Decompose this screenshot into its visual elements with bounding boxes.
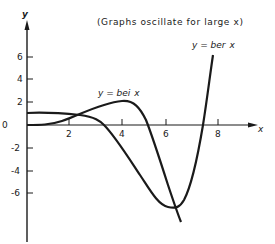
y-tick-label-6: 6 <box>17 52 23 62</box>
chart: 6 4 2 0 -2 -4 -6 2 4 6 8 y x (Graphs osc… <box>0 0 275 244</box>
bei-curve <box>27 101 181 222</box>
y-tick-label-neg6: -6 <box>11 188 20 198</box>
y-tick-label-4: 4 <box>17 74 23 84</box>
x-tick-label-6: 6 <box>163 129 169 139</box>
x-axis-label: x <box>257 124 264 134</box>
y-tick-label-neg4: -4 <box>11 166 20 176</box>
chart-title: (Graphs oscillate for large x) <box>97 17 244 27</box>
x-axis-arrow-icon <box>248 123 258 128</box>
bei-label: y = beix <box>97 88 140 98</box>
x-tick-label-4: 4 <box>119 129 125 139</box>
y-tick-label-2: 2 <box>17 97 23 107</box>
y-axis-label: y <box>22 9 29 19</box>
ber-label: y = berx <box>191 40 236 50</box>
x-tick-label-2: 2 <box>66 129 72 139</box>
x-ticks <box>69 119 218 125</box>
x-tick-label-8: 8 <box>215 129 221 139</box>
y-axis-arrow-icon <box>25 20 30 30</box>
origin-label: 0 <box>2 120 8 130</box>
y-tick-label-neg2: -2 <box>11 143 20 153</box>
